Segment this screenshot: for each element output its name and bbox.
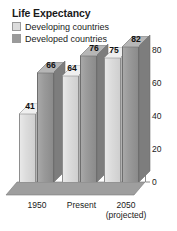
x-axis-label-2050-sub: (projected)	[103, 210, 149, 220]
bar-1950-developed	[37, 73, 54, 182]
bar-side-face	[139, 35, 152, 182]
bar-front	[122, 47, 139, 182]
bar-2050-developed	[122, 47, 139, 182]
bar-present-developed	[80, 56, 97, 182]
bar-value-2050-developed: 82	[128, 34, 144, 44]
bar-present-developing	[62, 76, 79, 182]
y-axis-label-80: 80	[152, 45, 161, 55]
bar-front	[37, 73, 54, 182]
life-expectancy-chart: Life Expectancy Developing countries Dev…	[0, 0, 177, 231]
bar-front	[80, 56, 97, 182]
bar-value-present-developing: 64	[64, 63, 80, 73]
plot-area: 41 66 64	[0, 0, 177, 231]
bar-2050-developing	[104, 58, 121, 182]
y-axis-label-20: 20	[152, 144, 161, 154]
bar-value-1950-developed: 66	[43, 60, 59, 70]
bar-front	[19, 114, 36, 182]
y-axis-label-40: 40	[152, 111, 161, 121]
floor-plane	[6, 182, 145, 195]
bar-value-1950-developing: 41	[22, 101, 38, 111]
bar-value-2050-developing: 75	[106, 45, 122, 55]
bar-front	[62, 76, 79, 182]
y-axis-label-60: 60	[152, 78, 161, 88]
y-axis-label-0: 0	[152, 177, 157, 187]
x-axis-label-2050: 2050 (projected)	[103, 200, 149, 220]
bar-1950-developing	[19, 114, 36, 182]
x-axis-label-1950: 1950	[17, 200, 57, 210]
x-axis-label-present: Present	[59, 200, 104, 210]
bar-front	[104, 58, 121, 182]
x-axis-label-2050-main: 2050	[117, 200, 136, 210]
bar-value-present-developed: 76	[86, 43, 102, 53]
